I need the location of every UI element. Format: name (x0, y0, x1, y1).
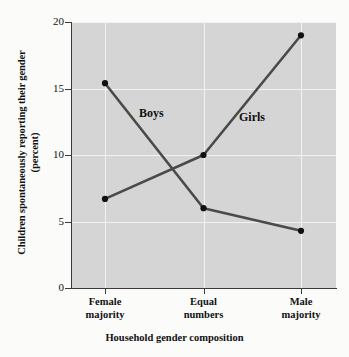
chart-figure: Children spontaneously reporting their g… (0, 0, 349, 357)
x-tick-label-line: numbers (159, 309, 249, 322)
x-tick-label-line: Male (256, 296, 346, 309)
x-tick-label-line: majority (60, 309, 150, 322)
y-tick-mark (65, 155, 72, 156)
series-label-boys: Boys (139, 106, 164, 121)
x-tick-label: Femalemajority (60, 296, 150, 321)
x-tick-label-line: Female (60, 296, 150, 309)
x-tick-mark (105, 288, 106, 294)
y-tick-label: 15 (24, 83, 64, 94)
x-tick-mark (204, 288, 205, 294)
series-label-girls: Girls (239, 110, 265, 125)
y-tick-label: 20 (24, 16, 64, 27)
x-tick-label: Equalnumbers (159, 296, 249, 321)
y-tick-label: 10 (24, 149, 64, 160)
gridline-vertical (301, 22, 302, 288)
y-tick-mark (65, 89, 72, 90)
x-tick-label-line: Equal (159, 296, 249, 309)
x-tick-label-line: majority (256, 309, 346, 322)
x-axis-title: Household gender composition (0, 332, 349, 343)
y-tick-mark (65, 288, 72, 289)
y-tick-mark (65, 22, 72, 23)
x-tick-mark (301, 288, 302, 294)
gridline-vertical (204, 22, 205, 288)
y-tick-label: 5 (24, 216, 64, 227)
y-tick-label: 0 (24, 282, 64, 293)
y-tick-mark (65, 222, 72, 223)
x-tick-label: Malemajority (256, 296, 346, 321)
gridline-vertical (105, 22, 106, 288)
